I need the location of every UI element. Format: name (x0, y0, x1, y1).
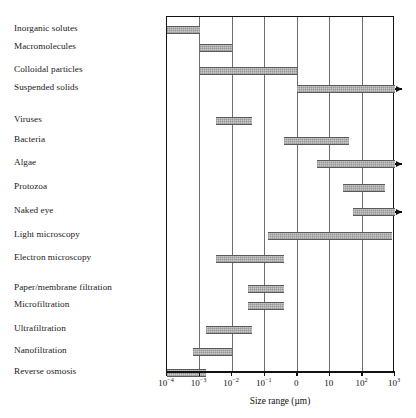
category-label: Ultrafiltration (14, 323, 66, 333)
range-bar (353, 208, 395, 216)
x-axis-tick-label: 0 (294, 378, 299, 388)
x-axis-tick (394, 371, 395, 376)
x-axis-tick (329, 371, 330, 376)
range-bar (200, 67, 298, 75)
x-axis-tick-label: 10 (324, 378, 333, 388)
range-bar (206, 326, 252, 334)
gridline (329, 17, 330, 371)
range-bar (297, 85, 395, 93)
category-label: Inorganic solutes (14, 23, 78, 33)
x-axis-tick (296, 371, 297, 376)
category-label: Reverse osmosis (14, 366, 76, 376)
range-bar (200, 44, 233, 52)
range-bar (268, 232, 392, 240)
range-bar (248, 285, 284, 293)
category-label: Viruses (14, 114, 42, 124)
range-bar (317, 160, 395, 168)
category-label: Algae (14, 157, 36, 167)
size-range-chart: Inorganic solutesMacromoleculesColloidal… (0, 0, 416, 418)
category-label: Electron microscopy (14, 252, 91, 262)
x-axis-title: Size range (µm) (166, 396, 394, 406)
x-axis-tick-label: 10−4 (158, 378, 174, 388)
category-label: Paper/membrane filtration (14, 282, 112, 292)
category-label: Light microscopy (14, 229, 80, 239)
category-label: Macromolecules (14, 41, 76, 51)
x-axis-tick (361, 371, 362, 376)
category-label: Microfiltration (14, 299, 69, 309)
category-label: Colloidal particles (14, 64, 83, 74)
range-bar (216, 255, 284, 263)
x-axis-tick-label: 102 (355, 378, 367, 388)
category-label: Nanofiltration (14, 345, 67, 355)
range-bar (193, 348, 232, 356)
range-bar (248, 302, 284, 310)
category-label: Bacteria (14, 134, 45, 144)
category-label: Suspended solids (14, 82, 78, 92)
gridline (362, 17, 363, 371)
x-axis-tick-label: 10−1 (256, 378, 272, 388)
plot-area (166, 16, 394, 371)
x-axis-tick-label: 103 (388, 378, 400, 388)
range-bar (343, 184, 385, 192)
x-axis-tick-label: 10−3 (191, 378, 207, 388)
category-label: Protozoa (14, 181, 47, 191)
range-bar (167, 26, 200, 34)
range-bar (216, 117, 252, 125)
x-axis-tick-label: 10−2 (223, 378, 239, 388)
range-bar (284, 137, 349, 145)
category-label: Naked eye (14, 205, 53, 215)
